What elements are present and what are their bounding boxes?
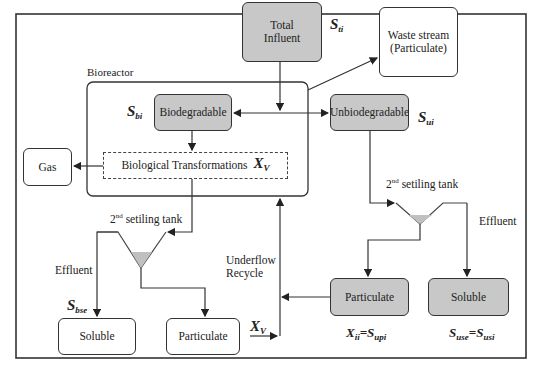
biodegradable-label: Biodegradable [159,106,226,119]
right-soluble-label: Soluble [451,291,486,304]
total-influent-label: Total Influent [257,19,307,45]
total-influent-symbol: Sti [330,16,343,34]
left-particulate-symbol: XV [250,318,266,336]
underflow-label: Underflow [226,254,276,267]
right-particulate-box: Particulate [330,278,409,316]
waste-stream-label: Waste stream [388,29,449,42]
unbiodegradable-box: Unbiodegradable [330,94,409,131]
left-effluent-symbol: Sbse [67,297,87,315]
biological-transformations-box: Biological Transformations XV [103,152,288,179]
transformations-symbol: XV [254,157,270,175]
left-particulate-box: Particulate [166,318,240,355]
right-settling-tank-label: 2nd setiling tank [386,175,458,191]
gas-label: Gas [39,161,57,174]
total-influent-box: Total Influent [242,2,322,62]
recycle-label: Recycle [226,267,263,280]
left-settling-tank-label: 2nd setiling tank [110,210,182,226]
transformations-label: Biological Transformations [121,159,247,172]
unbiodegradable-symbol: Sui [418,109,434,127]
gas-box: Gas [23,148,72,186]
left-effluent-label: Effluent [55,264,92,277]
waste-stream-box: Waste stream (Particulate) [379,7,458,77]
biodegradable-box: Biodegradable [154,94,232,131]
biodegradable-symbol: Sbi [127,103,142,121]
left-particulate-label: Particulate [178,330,227,343]
unbiodegradable-label: Unbiodegradable [330,106,409,119]
right-soluble-box: Soluble [428,278,509,316]
right-soluble-symbol: Suse=Susi [449,325,494,342]
bioreactor-label: Bioreactor [87,66,133,79]
left-soluble-label: Soluble [79,330,114,343]
left-soluble-box: Soluble [58,318,136,355]
right-particulate-symbol: Xii=Supi [346,325,386,342]
waste-stream-sublabel: (Particulate) [390,42,447,55]
right-particulate-label: Particulate [345,291,394,304]
right-effluent-label: Effluent [479,215,516,228]
